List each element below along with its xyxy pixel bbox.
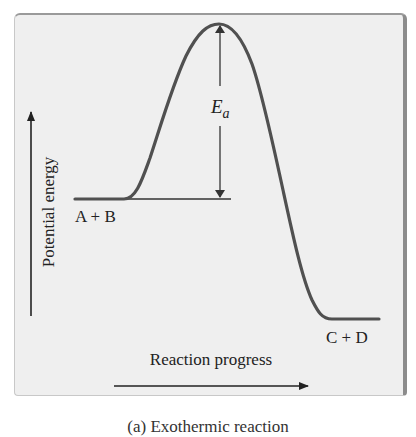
energy-curve (75, 24, 379, 319)
activation-energy-label: Ea (210, 96, 230, 121)
x-axis-label: Reaction progress (150, 350, 272, 369)
figure-caption: (a) Exothermic reaction (0, 417, 416, 437)
y-axis-label: Potential energy (39, 156, 58, 267)
reactants-label: A + B (75, 207, 116, 226)
products-label: C + D (326, 328, 368, 347)
